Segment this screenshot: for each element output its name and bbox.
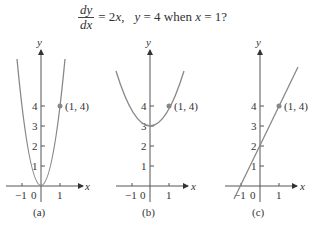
y-axis-label: y xyxy=(255,36,261,48)
point-marker xyxy=(58,104,63,109)
x-tick-neg1: −1 xyxy=(125,189,137,201)
x-tick-1: 1 xyxy=(276,189,282,201)
panel-caption: (a) xyxy=(33,206,46,219)
y-tick-3: 3 xyxy=(251,120,257,132)
y-axis-label: y xyxy=(36,36,42,48)
y-tick-2: 2 xyxy=(251,140,257,152)
y-tick-2: 2 xyxy=(141,140,147,152)
y-tick-4: 4 xyxy=(251,100,257,112)
x-tick-1: 1 xyxy=(166,189,172,201)
y-tick-4: 4 xyxy=(32,100,38,112)
y-tick-3: 3 xyxy=(32,120,38,132)
point-label: (1, 4) xyxy=(174,100,198,113)
x-tick-0: 0 xyxy=(140,189,146,201)
panel-c: x y −1 0 1 1 2 3 4 (1, 4) (c) xyxy=(225,36,308,219)
x-axis-label: x xyxy=(299,180,305,192)
panel-caption: (b) xyxy=(142,206,155,219)
x-tick-neg1: −1 xyxy=(15,189,27,201)
panel-b: x y −1 0 1 1 2 3 4 (1, 4) (b) xyxy=(116,36,198,219)
y-tick-1: 1 xyxy=(141,160,147,172)
panel-caption: (c) xyxy=(252,206,265,219)
x-axis-label: x xyxy=(190,180,196,192)
y-axis-label: y xyxy=(145,36,151,48)
point-label: (1, 4) xyxy=(284,100,308,113)
y-tick-3: 3 xyxy=(141,120,147,132)
point-label: (1, 4) xyxy=(65,100,89,113)
graphs-figure: x y −1 0 1 1 2 3 4 (1, 4) (a) x y −1 0 1… xyxy=(0,0,313,230)
x-axis-label: x xyxy=(84,180,90,192)
point-marker xyxy=(167,104,172,109)
x-tick-0: 0 xyxy=(31,189,37,201)
point-marker xyxy=(277,104,282,109)
line-c xyxy=(234,67,298,199)
y-tick-4: 4 xyxy=(141,100,147,112)
x-tick-0: 0 xyxy=(250,189,256,201)
panel-a: x y −1 0 1 1 2 3 4 (1, 4) (a) xyxy=(6,36,90,219)
x-tick-1: 1 xyxy=(57,189,63,201)
y-tick-2: 2 xyxy=(32,140,38,152)
